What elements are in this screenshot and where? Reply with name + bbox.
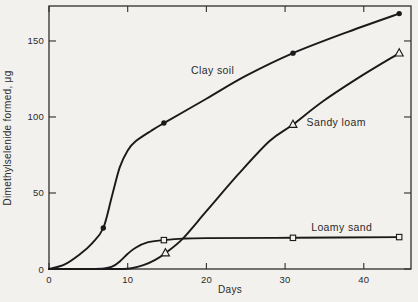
- x-axis-tick-label: 20: [201, 274, 212, 285]
- x-axis-title: Days: [218, 284, 242, 295]
- chart-svg: 010203040050100150Clay soilSandy loamLoa…: [0, 0, 418, 302]
- x-axis-tick-label: 40: [358, 274, 369, 285]
- series-marker-clay-soil: [161, 120, 166, 125]
- series-marker-sandy-loam: [161, 249, 169, 256]
- series-curve-loamy-sand: [49, 237, 399, 269]
- series-label-loamy-sand: Loamy sand: [311, 221, 372, 233]
- y-axis-tick-label: 100: [28, 111, 44, 122]
- series-marker-clay-soil: [101, 225, 106, 230]
- series-marker-loamy-sand: [396, 234, 401, 239]
- y-axis-title: Dimethylselenide formed, μg: [2, 70, 13, 205]
- y-axis-tick-label: 0: [39, 264, 44, 275]
- x-axis-tick-label: 30: [280, 274, 291, 285]
- series-label-clay-soil: Clay soil: [191, 64, 234, 76]
- series-marker-loamy-sand: [290, 235, 295, 240]
- y-axis-tick-label: 50: [33, 187, 44, 198]
- y-axis-tick-label: 150: [28, 35, 44, 46]
- series-marker-clay-soil: [290, 50, 295, 55]
- chart-generated-layer: 010203040050100150Clay soilSandy loamLoa…: [28, 6, 411, 285]
- line-chart-figure: 010203040050100150Clay soilSandy loamLoa…: [0, 0, 418, 302]
- series-marker-sandy-loam: [395, 49, 403, 56]
- series-marker-loamy-sand: [161, 237, 166, 242]
- x-axis-tick-label: 10: [122, 274, 133, 285]
- series-marker-sandy-loam: [289, 120, 297, 127]
- series-label-sandy-loam: Sandy loam: [307, 116, 366, 128]
- x-axis-tick-label: 0: [46, 274, 51, 285]
- series-marker-clay-soil: [396, 11, 401, 16]
